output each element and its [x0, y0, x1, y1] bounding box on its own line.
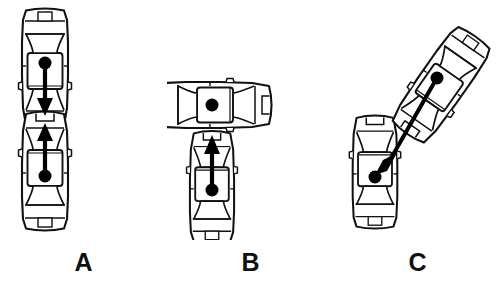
panel-label-c: C: [334, 248, 501, 276]
panel-c: C: [334, 0, 501, 289]
collision-diagram-figure: A: [0, 0, 501, 289]
center-of-gravity-marker: [39, 57, 52, 70]
panel-a: A: [0, 0, 167, 289]
center-of-gravity-marker: [39, 170, 52, 183]
center-of-gravity-marker: [206, 99, 219, 112]
panel-a-illustration: [0, 0, 167, 240]
center-of-gravity-marker: [206, 184, 219, 197]
vehicle-body: [385, 21, 497, 149]
panel-c-illustration: [334, 0, 501, 240]
panel-b: B: [167, 0, 334, 289]
panel-b-illustration: [167, 0, 334, 240]
panel-label-b: B: [167, 248, 334, 276]
vehicle-body: [167, 79, 272, 132]
panel-label-a: A: [0, 248, 167, 276]
